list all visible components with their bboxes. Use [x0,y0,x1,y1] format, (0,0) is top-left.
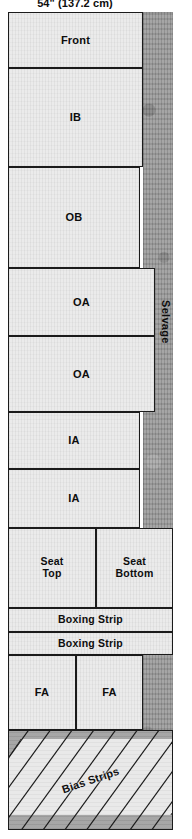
fabric-piece-label: Seat Bottom [116,556,154,580]
selvage-label: Selvage [160,300,172,344]
fabric-layout-diagram: FrontIBOBOAOAIAIASeat TopSeat BottomBoxi… [8,12,173,830]
fabric-piece-ib: IB [8,68,143,167]
bias-strips-block: Bias Strips [8,730,173,830]
fabric-piece-label: Seat Top [41,556,64,580]
fabric-piece-boxing-2: Boxing Strip [8,632,173,655]
fabric-piece-ob: OB [8,167,140,268]
fabric-width-label: 54" (137.2 cm) [0,0,150,9]
fabric-piece-label: FA [102,686,116,698]
fabric-piece-label: IA [68,492,79,504]
fabric-piece-fa-1: FA [8,655,76,730]
fabric-piece-boxing-1: Boxing Strip [8,608,173,632]
fabric-piece-fa-2: FA [76,655,143,730]
fabric-piece-label: OA [73,368,90,380]
fabric-piece-seat-top: Seat Top [8,528,96,608]
fabric-piece-oa-1: OA [8,268,155,336]
fabric-piece-label: IB [70,111,81,123]
fabric-piece-oa-2: OA [8,336,155,412]
fabric-piece-ia-1: IA [8,412,140,469]
selvage-band [143,12,173,830]
fabric-piece-label: FA [35,686,49,698]
fabric-piece-seat-bottom: Seat Bottom [96,528,173,608]
fabric-piece-label: Front [61,34,90,46]
fabric-piece-label: OA [73,296,90,308]
fabric-piece-label: OB [66,211,83,223]
fabric-piece-label: IA [68,434,79,446]
fabric-piece-label: Boxing Strip [58,614,123,626]
fabric-piece-label: Boxing Strip [58,638,123,650]
fabric-piece-front: Front [8,12,143,68]
fabric-piece-ia-2: IA [8,469,140,528]
